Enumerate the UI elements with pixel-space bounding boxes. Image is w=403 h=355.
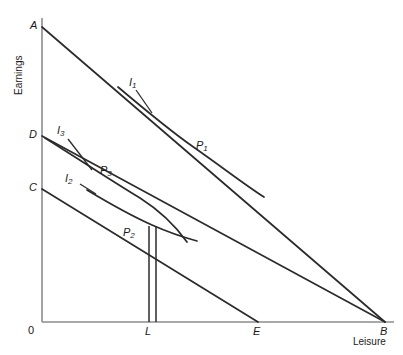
indifference-curve-i1 <box>118 87 264 197</box>
budget-line-ce <box>42 189 258 322</box>
point-label-a: A <box>30 20 37 31</box>
point-label-p2-sub: 2 <box>130 231 134 240</box>
curve-label-i3-sub: 3 <box>60 129 64 138</box>
leader-line-i2 <box>80 184 96 194</box>
x-axis-title: Leisure <box>353 337 386 347</box>
point-label-c: C <box>29 182 37 193</box>
point-label-d: D <box>29 129 37 140</box>
origin-label: 0 <box>28 325 34 336</box>
indifference-curve-i3 <box>45 138 187 242</box>
curve-label-i1-sub: 1 <box>132 81 136 90</box>
point-label-p2: P2 <box>123 227 135 238</box>
y-axis-title: Earnings <box>14 56 24 95</box>
x-tick-label-e: E <box>253 326 260 337</box>
curve-label-i1: I1 <box>129 77 137 88</box>
point-label-p3-sub: 3 <box>107 169 111 178</box>
point-label-p1-sub: 1 <box>203 144 207 153</box>
curve-label-i3: I3 <box>57 125 65 136</box>
budget-line-ab <box>42 27 385 322</box>
curve-label-i2: I2 <box>65 173 73 184</box>
x-tick-label-l: L <box>145 326 151 337</box>
point-label-p3: P3 <box>100 165 112 176</box>
diagram-svg <box>0 0 403 355</box>
point-label-p1: P1 <box>196 140 208 151</box>
x-tick-label-b: B <box>380 326 387 337</box>
curve-label-i2-sub: 2 <box>68 177 72 186</box>
figure-canvas: Earnings Leisure 0 A D C L E B P1 P3 P2 … <box>0 0 403 355</box>
